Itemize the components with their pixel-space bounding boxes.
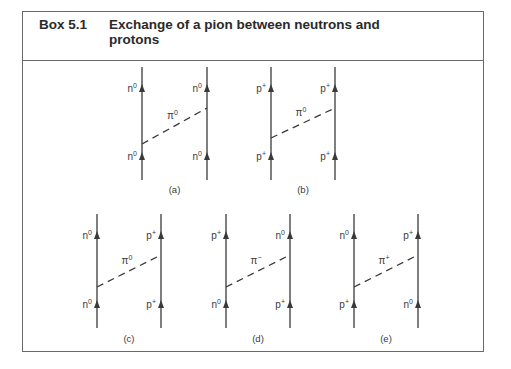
diagram-b-left-incoming-label: p+: [256, 150, 266, 162]
diagram-a-left-outgoing-label: n0: [128, 82, 138, 94]
diagram-e-left-upper-arrow-icon: [351, 231, 357, 239]
feynman-diagrams: n0n0n0n0π0(a)p+p+p+p+π0(b)n0n0p+p+π0(c)p…: [0, 0, 511, 369]
diagram-b-left-outgoing-label: p+: [256, 82, 266, 94]
diagram-b-right-lower-arrow-icon: [332, 152, 338, 160]
diagram-b-right-outgoing-label: p+: [320, 82, 330, 94]
diagram-c-left-upper-arrow-icon: [94, 231, 100, 239]
diagram-a-right-upper-arrow-icon: [204, 84, 210, 92]
diagram-c-left-incoming-label: n0: [83, 298, 93, 310]
diagram-d-right-outgoing-label: n0: [276, 229, 286, 241]
diagram-d-pion-label: π−: [251, 254, 262, 266]
diagram-c-left-outgoing-label: n0: [83, 229, 93, 241]
diagram-e-left-incoming-label: p+: [339, 298, 349, 310]
diagram-a-caption: (a): [169, 184, 181, 195]
diagram-b-caption: (b): [297, 184, 309, 195]
diagram-b-left-upper-arrow-icon: [268, 84, 274, 92]
diagram-d-right-upper-arrow-icon: [287, 231, 293, 239]
diagram-d-left-upper-arrow-icon: [223, 231, 229, 239]
diagram-a-left-lower-arrow-icon: [139, 152, 145, 160]
diagram-b-pion-label: π0: [296, 106, 307, 118]
diagram-d-left-lower-arrow-icon: [223, 300, 229, 308]
diagram-e-right-lower-arrow-icon: [415, 300, 421, 308]
diagram-d-right-lower-arrow-icon: [287, 300, 293, 308]
diagram-c-right-incoming-label: p+: [146, 298, 156, 310]
diagram-a-pion-label: π0: [167, 109, 178, 121]
diagram-e-right-upper-arrow-icon: [415, 231, 421, 239]
diagram-b-right-incoming-label: p+: [320, 150, 330, 162]
diagram-c-caption: (c): [123, 333, 134, 344]
diagram-d-left-incoming-label: n0: [212, 298, 222, 310]
diagram-a-left-incoming-label: n0: [128, 150, 138, 162]
diagram-e-pion-label: π+: [379, 254, 390, 266]
diagram-a-right-incoming-label: n0: [193, 150, 203, 162]
diagram-a-right-lower-arrow-icon: [204, 152, 210, 160]
diagram-a-left-upper-arrow-icon: [139, 84, 145, 92]
diagram-c-right-outgoing-label: p+: [146, 229, 156, 241]
diagram-b-left-lower-arrow-icon: [268, 152, 274, 160]
diagram-c-pion-label: π0: [122, 254, 133, 266]
diagram-d-right-incoming-label: p+: [275, 298, 285, 310]
diagram-d-caption: (d): [252, 333, 264, 344]
diagram-d-left-outgoing-label: p+: [211, 229, 221, 241]
diagram-b-right-upper-arrow-icon: [332, 84, 338, 92]
diagram-e-right-incoming-label: n0: [404, 298, 414, 310]
diagram-c-left-lower-arrow-icon: [94, 300, 100, 308]
diagram-c-right-lower-arrow-icon: [158, 300, 164, 308]
diagram-c-right-upper-arrow-icon: [158, 231, 164, 239]
diagram-e-right-outgoing-label: p+: [403, 229, 413, 241]
diagram-e-left-outgoing-label: n0: [340, 229, 350, 241]
diagram-e-caption: (e): [380, 333, 392, 344]
diagram-e-left-lower-arrow-icon: [351, 300, 357, 308]
diagram-a-right-outgoing-label: n0: [193, 82, 203, 94]
